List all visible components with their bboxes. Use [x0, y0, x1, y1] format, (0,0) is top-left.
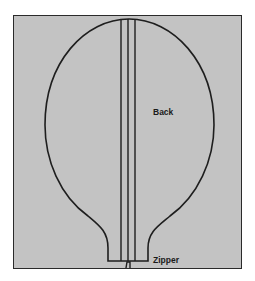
- label-back: Back: [153, 107, 173, 117]
- garment-back-pattern: [0, 0, 255, 281]
- zipper-pull-icon: [126, 262, 130, 268]
- label-zipper: Zipper: [153, 255, 179, 265]
- back-outline: [45, 19, 214, 261]
